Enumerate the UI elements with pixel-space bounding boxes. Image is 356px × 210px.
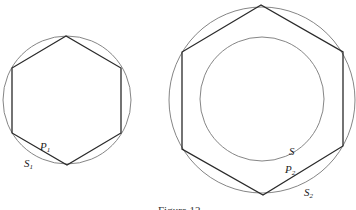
right-inner-circle xyxy=(200,37,324,161)
left-figure: P1 S1 xyxy=(3,36,131,171)
geometry-diagram: P1 S1 S P2 S2 Figure 12 xyxy=(0,0,356,210)
right-figure: S P2 S2 xyxy=(169,5,355,200)
right-circumcircle xyxy=(169,7,355,193)
right-hexagon xyxy=(182,5,343,195)
label-s: S xyxy=(289,145,295,157)
left-circumcircle xyxy=(3,36,131,164)
left-hexagon xyxy=(12,36,121,165)
figure-caption: Figure 12 xyxy=(158,204,200,210)
label-p2: P2 xyxy=(284,163,296,177)
label-p1: P1 xyxy=(39,140,50,154)
label-s1: S1 xyxy=(24,157,33,171)
label-s2: S2 xyxy=(304,186,314,200)
